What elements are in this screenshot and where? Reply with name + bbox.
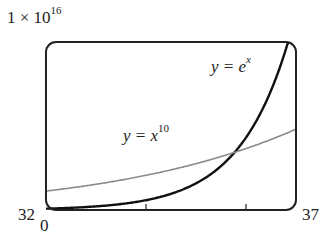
x-axis-max-label: 37 [302,205,319,225]
curve-power [46,129,296,191]
plot-frame [46,42,296,210]
legend-exp-curve: y = ex [211,55,251,77]
y-axis-min-label: 0 [40,216,49,236]
x-axis-min-label: 32 [18,205,35,225]
legend-power-curve: y = x10 [123,124,169,146]
y-axis-max-label: 1 × 1016 [7,6,62,28]
